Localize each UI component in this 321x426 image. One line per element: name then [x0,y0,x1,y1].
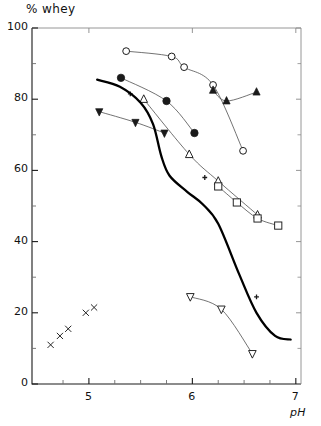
series-cross-x [48,304,98,348]
data-point-triangle-up-filled [253,88,260,95]
series-filled-triangle-down [96,109,168,138]
data-point-x [57,333,63,339]
y-tick-label: 100 [7,20,28,33]
data-point-circle-open [181,64,188,71]
series-open-square [215,183,282,229]
y-tick-label: 80 [14,91,28,104]
x-tick-label: 7 [292,390,299,403]
data-point-square-open [215,183,222,190]
series-connector-line [121,78,194,133]
data-point-triangle-down-filled [161,130,168,137]
data-point-circle-open [240,147,247,154]
series-filled-circle [117,74,198,137]
series-open-triangle-up [140,95,261,218]
data-point-circle-filled [117,74,124,81]
axis-frame-left-bottom [32,28,301,384]
axis-frame-top-right [32,28,301,384]
data-point-circle-filled [191,129,198,136]
series-filled-triangle-up [209,86,260,104]
whey-ph-scatter-chart: % whey pH 020406080100567 [0,0,321,426]
data-point-x [65,326,71,332]
y-tick-label: 20 [14,305,28,318]
data-point-circle-filled [163,97,170,104]
series-connector-line [218,186,278,225]
data-point-x [48,342,54,348]
series-connector-line [190,297,252,354]
series-thick-trend-curve [97,80,290,340]
x-tick-label: 6 [188,390,195,403]
data-point-x [91,304,97,310]
data-point-square-open [233,199,240,206]
series-open-triangle-down [186,294,256,359]
plot-area [0,0,321,426]
data-point-circle-open [168,53,175,60]
data-point-circle-open [123,48,130,55]
y-tick-label: 40 [14,234,28,247]
data-point-plus [202,175,207,180]
data-point-triangle-up-open [140,95,148,103]
data-point-square-open [254,215,261,222]
x-tick-label: 5 [85,390,92,403]
trend-curve-thick [97,80,290,340]
data-point-plus [254,294,259,299]
y-tick-label: 60 [14,162,28,175]
data-point-x [83,310,89,316]
data-point-triangle-down-open [249,351,257,359]
y-tick-label: 0 [21,376,28,389]
data-point-square-open [275,222,282,229]
